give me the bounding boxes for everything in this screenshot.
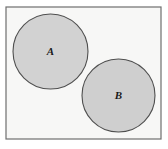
venn-diagram-figure: A B [0, 0, 168, 149]
set-a-label: A [46, 45, 54, 57]
set-b-label: B [114, 89, 122, 101]
venn-diagram-canvas: A B [0, 0, 168, 149]
